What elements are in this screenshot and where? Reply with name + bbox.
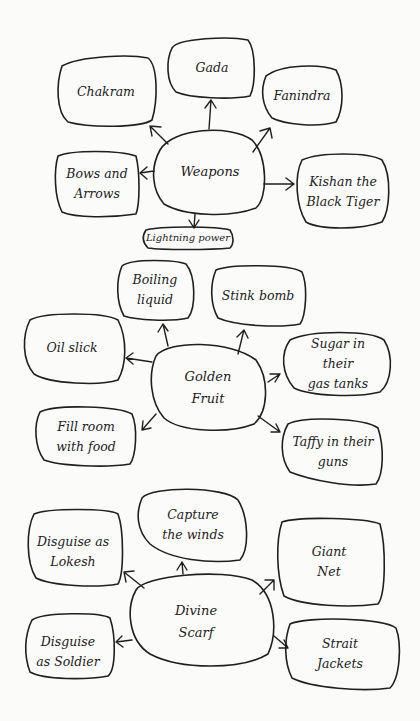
node-label-bows-arrows: Bows and Arrows [66, 164, 127, 204]
node-label-oil: Oil slick [46, 338, 97, 358]
arrow-weapons-bows [140, 167, 154, 179]
arrow-divine-capture [177, 562, 187, 574]
node-label-lokesh: Disguise as Lokesh [37, 532, 109, 572]
node-label-boiling: Boiling liquid [133, 270, 178, 310]
center-label-divine: Divine Scarf [175, 600, 217, 644]
node-label-fillroom: Fill room with food [56, 417, 115, 457]
node-label-stink: Stink bomb [222, 286, 295, 306]
center-label-golden: Golden Fruit [185, 366, 232, 410]
arrow-divine-soldier [116, 636, 132, 647]
center-label-weapons: Weapons [181, 161, 240, 183]
node-label-strait: Strait Jackets [317, 634, 363, 674]
arrow-golden-oil [126, 353, 152, 364]
arrow-golden-taffy [258, 416, 280, 432]
node-label-soldier: Disguise as Soldier [36, 632, 99, 672]
arrow-weapons-lightning [189, 214, 199, 228]
arrow-divine-lokesh [124, 571, 144, 588]
node-label-sugar: Sugar in their gas tanks [297, 334, 379, 394]
arrow-weapons-kishan [264, 178, 294, 190]
node-label-kishan: Kishan the Black Tiger [307, 172, 380, 212]
arrow-weapons-gada [205, 100, 216, 129]
node-label-capture: Capture the winds [162, 505, 224, 545]
node-label-giantnet: Giant Net [312, 542, 347, 582]
node-label-gada: Gada [196, 58, 229, 78]
node-label-fanindra: Fanindra [274, 86, 331, 106]
arrow-golden-stink [237, 330, 248, 354]
arrow-golden-fillroom [142, 414, 156, 430]
node-label-taffy: Taffy in their guns [292, 432, 373, 472]
arrow-divine-giantnet [260, 580, 274, 594]
node-label-lightning: Lightning power [146, 232, 230, 244]
arrow-golden-sugar [268, 374, 280, 382]
node-label-chakram: Chakram [77, 82, 135, 102]
arrow-golden-boiling [158, 324, 168, 346]
arrow-weapons-chakram [150, 126, 168, 144]
arrow-weapons-fanindra [253, 128, 272, 152]
